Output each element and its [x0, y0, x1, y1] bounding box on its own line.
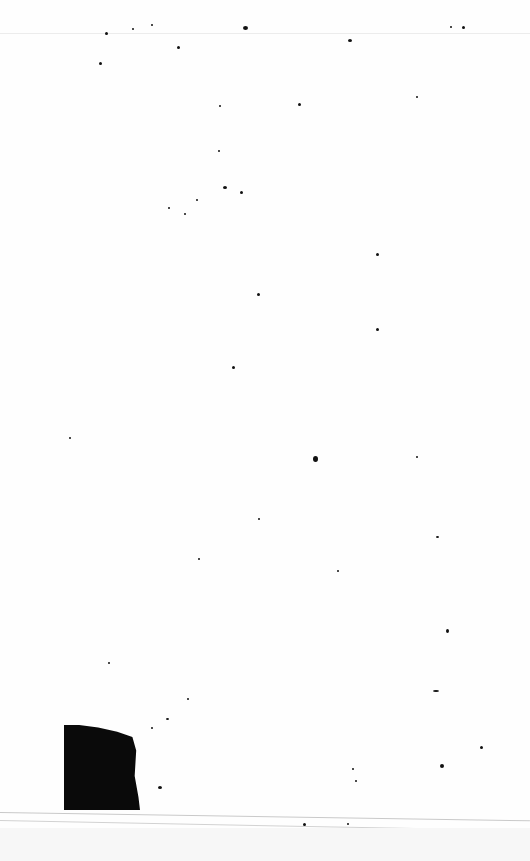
speck: [198, 558, 200, 560]
scanned-page: [0, 0, 530, 861]
top-edge-line: [0, 33, 530, 34]
speck: [219, 105, 221, 107]
speck: [240, 191, 243, 194]
speck: [440, 764, 444, 768]
speck: [166, 718, 169, 720]
speck: [436, 536, 439, 538]
speck: [257, 293, 260, 296]
speck: [376, 328, 379, 331]
speck: [355, 780, 357, 782]
speck: [446, 629, 449, 633]
speck: [105, 32, 108, 35]
speck: [243, 26, 248, 30]
speck: [337, 570, 339, 572]
speck: [433, 690, 439, 692]
bottom-edge-line: [0, 812, 530, 821]
speck: [218, 150, 220, 152]
speck: [347, 823, 349, 825]
speck: [108, 662, 110, 664]
speck: [376, 253, 379, 256]
speck: [348, 39, 352, 42]
speck: [196, 199, 198, 201]
speck: [416, 456, 418, 458]
speck: [187, 698, 189, 700]
speck: [450, 26, 452, 28]
black-mark-block: [64, 725, 140, 810]
speck: [69, 437, 71, 439]
speck: [177, 46, 180, 49]
speck: [416, 96, 418, 98]
speck: [151, 24, 153, 26]
speck: [184, 213, 186, 215]
speck: [151, 727, 153, 729]
speck: [99, 62, 102, 65]
speck: [462, 26, 465, 29]
speck: [352, 768, 354, 770]
speck: [232, 366, 235, 369]
speck: [132, 28, 134, 30]
speck: [258, 518, 260, 520]
speck: [313, 456, 318, 462]
bottom-margin-band: [0, 828, 530, 861]
speck: [303, 823, 306, 826]
speck: [158, 786, 162, 789]
speck: [168, 207, 170, 209]
speck: [480, 746, 483, 749]
speck: [298, 103, 301, 106]
speck: [223, 186, 227, 189]
